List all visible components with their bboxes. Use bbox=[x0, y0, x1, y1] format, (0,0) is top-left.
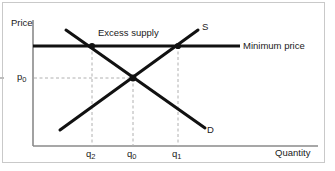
excess-supply-annotation: Excess supply bbox=[98, 27, 159, 38]
minimum-price-label: Minimum price bbox=[243, 40, 305, 51]
point-q1-on-floor bbox=[175, 43, 181, 49]
point-equilibrium bbox=[130, 75, 137, 82]
equilibrium-price-label-sub: 0 bbox=[22, 75, 26, 84]
point-q2-on-floor bbox=[89, 43, 95, 49]
supply-curve-label: S bbox=[202, 21, 208, 32]
x-tick-label-q2: q2 bbox=[86, 148, 95, 159]
equilibrium-price-label: p0 bbox=[17, 71, 26, 82]
y-axis-label: Price bbox=[11, 17, 33, 28]
x-tick-label-q0: q0 bbox=[127, 148, 136, 159]
diagram-screenshot: Price p0 Excess supply Minimum price S D… bbox=[0, 0, 335, 171]
supply-demand-chart bbox=[0, 0, 335, 171]
x-tick-label-q1: q1 bbox=[172, 148, 181, 159]
x-tick-label-q1-sub: 1 bbox=[177, 152, 181, 161]
demand-curve-label: D bbox=[207, 124, 214, 135]
x-tick-label-q0-sub: 0 bbox=[132, 152, 136, 161]
x-axis-label: Quantity bbox=[275, 147, 310, 158]
x-tick-label-q2-sub: 2 bbox=[91, 152, 95, 161]
